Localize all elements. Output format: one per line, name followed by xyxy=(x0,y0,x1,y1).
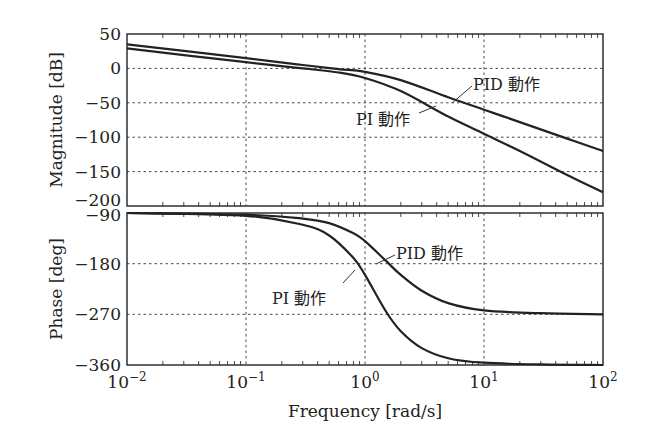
mag-tick-minus150: −150 xyxy=(74,162,121,182)
phase-tick-minus180: −180 xyxy=(74,254,121,274)
magnitude-panel: 50 0 −50 −100 −150 −200 Magnitude [dB] P… xyxy=(46,24,603,210)
x-axis-label: Frequency [rad/s] xyxy=(288,401,442,421)
pi-magnitude-annotation: PI 動作 xyxy=(356,110,410,129)
pid-mag-leader-line xyxy=(452,86,472,103)
phase-minor-ticks xyxy=(163,213,598,365)
x-tick-labels: 10−2 10−1 100 101 102 xyxy=(107,370,617,392)
x-tick-1e0: 100 xyxy=(350,370,379,392)
x-tick-1e-1: 10−1 xyxy=(226,370,265,392)
pid-magnitude-annotation: PID 動作 xyxy=(473,75,540,94)
pi-phase-leader-line xyxy=(343,270,355,283)
mag-tick-minus100: −100 xyxy=(74,127,121,147)
pid-phase-leader-line xyxy=(376,255,395,264)
mag-tick-0: 0 xyxy=(110,58,121,78)
phase-tick-minus270: −270 xyxy=(74,304,121,324)
pid-phase-annotation: PID 動作 xyxy=(396,244,463,263)
pi-phase-annotation: PI 動作 xyxy=(272,289,326,308)
magnitude-y-tick-labels: 50 0 −50 −100 −150 −200 xyxy=(74,24,121,210)
phase-tick-minus90: −90 xyxy=(85,205,121,225)
mag-tick-minus50: −50 xyxy=(85,93,121,113)
phase-grid xyxy=(127,213,603,365)
phase-y-tick-labels: −90 −180 −270 −360 xyxy=(74,205,121,375)
x-tick-1e-2: 10−2 xyxy=(107,370,146,392)
magnitude-y-axis-label: Magnitude [dB] xyxy=(46,52,66,188)
phase-panel: −90 −180 −270 −360 Phase [deg] PID 動作 PI… xyxy=(46,205,618,421)
x-tick-1e2: 102 xyxy=(588,370,617,392)
mag-tick-50: 50 xyxy=(99,24,121,44)
phase-y-axis-label: Phase [deg] xyxy=(46,238,66,340)
x-tick-1e1: 101 xyxy=(469,370,498,392)
bode-plot-figure: 50 0 −50 −100 −150 −200 Magnitude [dB] P… xyxy=(0,0,664,445)
